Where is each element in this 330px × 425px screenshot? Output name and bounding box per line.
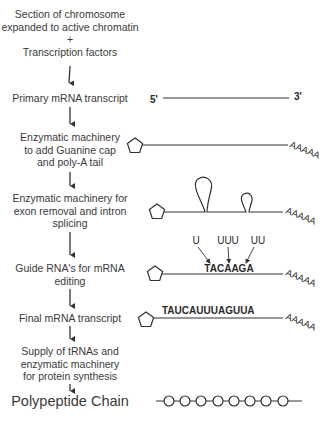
flow-arrows — [69, 66, 70, 391]
editing-transcript-strand: U UUU UU TACAAGA AAAAA — [147, 235, 318, 289]
intron-loop — [164, 177, 283, 212]
polypeptide-chain — [156, 396, 302, 406]
poly-a-tail: AAAAA — [284, 267, 318, 289]
edit-insertion-uuu: UUU — [217, 235, 239, 246]
guanine-cap-icon — [149, 204, 164, 219]
amino-acid-icon — [278, 396, 288, 406]
amino-acid-icon — [245, 396, 255, 406]
guanine-cap-icon — [127, 138, 142, 153]
poly-a-tail: AAAAA — [284, 205, 318, 227]
poly-a-tail: AAAAA — [284, 311, 318, 333]
amino-acid-icon — [229, 396, 239, 406]
capped-transcript-strand: AAAAA — [127, 138, 322, 161]
guanine-cap-icon — [147, 266, 162, 281]
arrow-down-icon — [69, 66, 70, 83]
five-prime-label: 5' — [150, 94, 158, 105]
amino-acid-icon — [164, 396, 174, 406]
final-sequence: TAUCAUUUAGUUA — [162, 305, 255, 316]
arrow-icon — [228, 247, 229, 263]
poly-a-tail: AAAAA — [288, 139, 322, 161]
primary-transcript-strand: 5' 3' — [150, 91, 302, 105]
amino-acid-icon — [261, 396, 271, 406]
diagram-canvas: 5' 3' AAAAA AAAAA U UUU UU TACAAGA AAAAA… — [0, 0, 330, 425]
final-transcript-strand: TAUCAUUUAGUUA AAAAA — [138, 305, 318, 333]
edit-insertion-u: U — [192, 235, 199, 246]
arrow-icon — [198, 247, 210, 263]
edit-insertion-uu: UU — [251, 235, 265, 246]
three-prime-label: 3' — [294, 91, 302, 102]
amino-acid-icon — [196, 396, 206, 406]
pre-edit-sequence: TACAAGA — [204, 263, 253, 274]
spliced-transcript-strand: AAAAA — [149, 177, 318, 227]
arrow-icon — [246, 247, 254, 263]
amino-acid-icon — [180, 396, 190, 406]
amino-acid-icon — [213, 396, 223, 406]
guanine-cap-icon — [138, 312, 153, 327]
